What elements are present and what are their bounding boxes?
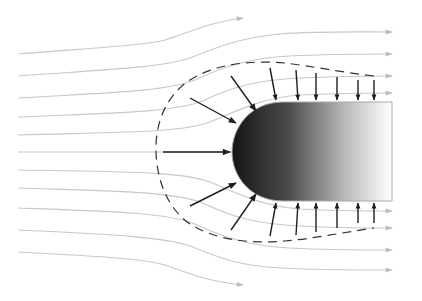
flow-diagram — [0, 0, 422, 301]
pressure-arrow-bottom-2 — [296, 203, 298, 235]
pressure-arrow-lower-left — [190, 183, 236, 206]
streamline-9 — [18, 208, 392, 250]
pressure-arrow-lower-2 — [231, 194, 256, 230]
body-shape — [232, 102, 392, 201]
blunt-body — [232, 102, 392, 201]
pressure-arrow-bottom-1 — [270, 203, 276, 236]
pressure-arrow-top-1 — [270, 68, 276, 100]
streamline-1 — [18, 18, 243, 54]
streamline-11 — [18, 252, 243, 285]
pressure-arrow-upper-2 — [231, 76, 256, 111]
streamline-3 — [18, 54, 392, 98]
pressure-arrow-upper-left — [190, 98, 236, 123]
streamline-2 — [18, 32, 392, 76]
